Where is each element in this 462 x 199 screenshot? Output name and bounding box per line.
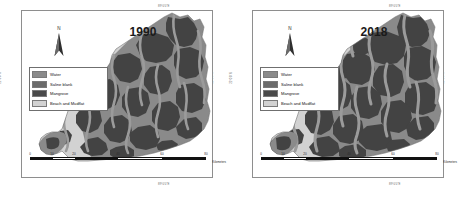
scale-bar-graphic	[261, 157, 437, 160]
coordinate-label-bottom: 89°0'0"E	[158, 182, 170, 186]
legend-item-mangrove: Mangrove	[32, 89, 105, 99]
legend-swatch-mangrove	[263, 90, 278, 97]
north-arrow-icon	[52, 32, 66, 58]
legend-label-beach-and-mudflat: Beach and Mudflat	[50, 100, 84, 107]
legend-label-water: Water	[281, 71, 292, 78]
scale-bar-units: Kilometers	[212, 160, 226, 164]
legend-swatch-mangrove	[32, 90, 47, 97]
legend-swatch-saline-blank	[263, 81, 278, 88]
legend-swatch-water	[263, 71, 278, 78]
legend-label-water: Water	[50, 71, 61, 78]
scale-tick-4: 60	[391, 152, 394, 156]
legend-label-saline-blank: Saline blank	[281, 81, 303, 88]
legend-swatch-water	[32, 71, 47, 78]
map-frame: 2018 N Water Saline blank	[252, 10, 444, 178]
scale-tick-1: 10	[50, 152, 53, 156]
north-arrow: N	[50, 26, 68, 60]
scale-bar-graphic	[30, 157, 206, 160]
legend-item-water: Water	[32, 70, 105, 80]
coordinate-label-left: 22°0'0"N	[229, 72, 233, 84]
scale-tick-0: 0	[260, 152, 262, 156]
scale-tick-0: 0	[29, 152, 31, 156]
legend-swatch-beach-and-mudflat	[32, 100, 47, 107]
map-panel-1990: 89°0'0"E 89°0'0"E 22°0'0"N 22°0'0"N	[0, 0, 231, 199]
north-arrow: N	[281, 26, 299, 60]
panel-year-title: 1990	[108, 25, 178, 39]
map-legend: Water Saline blank Mangrove Beach and Mu…	[29, 67, 108, 111]
map-legend: Water Saline blank Mangrove Beach and Mu…	[260, 67, 339, 111]
scale-tick-1: 10	[281, 152, 284, 156]
north-arrow-icon	[283, 32, 297, 58]
legend-label-mangrove: Mangrove	[281, 90, 299, 97]
coordinate-label-top: 89°0'0"E	[158, 4, 170, 8]
scale-tick-2: 20	[303, 152, 306, 156]
scale-tick-5: 80	[204, 152, 207, 156]
legend-item-mangrove: Mangrove	[263, 89, 336, 99]
scale-tick-2: 20	[72, 152, 75, 156]
legend-item-saline-blank: Saline blank	[263, 80, 336, 90]
legend-item-beach-and-mudflat: Beach and Mudflat	[263, 99, 336, 109]
legend-swatch-beach-and-mudflat	[263, 100, 278, 107]
scale-bar-units: Kilometers	[443, 160, 457, 164]
scale-bar: 0 10 20 40 60 80 Kilometers	[30, 152, 206, 166]
scale-tick-3: 40	[347, 152, 350, 156]
legend-swatch-saline-blank	[32, 81, 47, 88]
coordinate-label-top: 89°0'0"E	[389, 4, 401, 8]
coordinate-label-bottom: 89°0'0"E	[389, 182, 401, 186]
legend-item-water: Water	[263, 70, 336, 80]
scale-tick-5: 80	[435, 152, 438, 156]
map-panel-2018: 89°0'0"E 89°0'0"E 22°0'0"N 22°0'0"N	[231, 0, 462, 199]
scale-tick-3: 40	[116, 152, 119, 156]
panel-year-title: 2018	[339, 25, 409, 39]
legend-label-mangrove: Mangrove	[50, 90, 68, 97]
legend-item-beach-and-mudflat: Beach and Mudflat	[32, 99, 105, 109]
coordinate-label-left: 22°0'0"N	[0, 72, 2, 84]
map-frame: 1990 N Water Saline blank	[21, 10, 213, 178]
scale-bar: 0 10 20 40 60 80 Kilometers	[261, 152, 437, 166]
legend-label-beach-and-mudflat: Beach and Mudflat	[281, 100, 315, 107]
legend-label-saline-blank: Saline blank	[50, 81, 72, 88]
scale-tick-4: 60	[160, 152, 163, 156]
legend-item-saline-blank: Saline blank	[32, 80, 105, 90]
figure-sheet: 89°0'0"E 89°0'0"E 22°0'0"N 22°0'0"N	[0, 0, 462, 199]
